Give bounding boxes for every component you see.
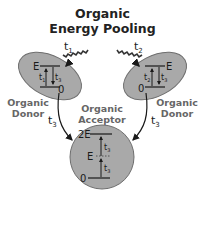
donor-right-level-0: 0 [138, 83, 144, 94]
photon-right-time: t2 [134, 40, 143, 55]
acceptor-level-2e: 2E [78, 129, 91, 140]
donor-left-level-e: E [33, 61, 39, 72]
photon-left-time: t1 [64, 40, 73, 55]
donor-right-level-e: E [166, 61, 172, 72]
donor-left-label: OrganicDonor [4, 97, 52, 119]
acceptor-level-e: E [87, 151, 93, 162]
acceptor-label: OrganicAcceptor [72, 103, 132, 125]
acceptor-level-0: 0 [80, 173, 86, 184]
donor-right-label: OrganicDonor [153, 97, 201, 119]
